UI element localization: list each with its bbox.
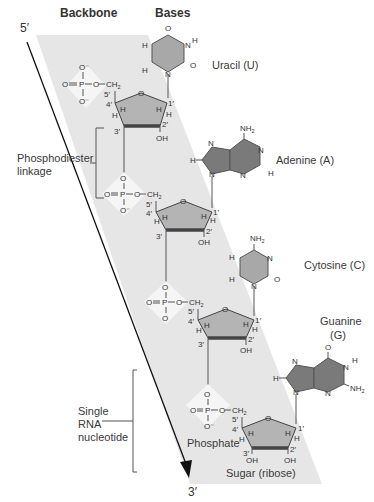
svg-text:H: H	[154, 217, 160, 226]
phosphodiester-label-line1: Phosphodiester	[17, 152, 94, 164]
svg-text:OH: OH	[240, 346, 252, 355]
svg-text:1′: 1′	[168, 99, 174, 108]
svg-text:H: H	[190, 156, 196, 165]
svg-text:3′: 3′	[156, 232, 162, 241]
svg-text:NH2: NH2	[240, 124, 255, 134]
svg-text:H: H	[201, 212, 207, 221]
svg-text:O: O	[180, 197, 186, 206]
svg-text:O: O	[104, 190, 110, 199]
svg-text:OH: OH	[198, 238, 210, 247]
svg-text:N: N	[325, 389, 331, 398]
svg-text:N: N	[267, 254, 273, 263]
svg-text:P: P	[162, 298, 167, 307]
svg-text:N: N	[165, 70, 171, 79]
svg-text:H: H	[248, 429, 254, 438]
base-label-guanine: Guanine	[320, 315, 362, 327]
svg-text:O: O	[190, 61, 196, 70]
svg-text:P: P	[205, 406, 210, 415]
svg-text:O: O	[165, 24, 171, 33]
svg-text:O: O	[219, 406, 225, 415]
svg-text:H: H	[210, 216, 216, 225]
svg-text:N: N	[293, 388, 299, 397]
svg-text:OH: OH	[156, 134, 168, 143]
svg-text:5′: 5′	[104, 90, 110, 99]
svg-text:H: H	[142, 41, 148, 50]
svg-text:NH2: NH2	[350, 384, 365, 394]
svg-text:N: N	[343, 363, 349, 372]
svg-text:O: O	[162, 283, 168, 292]
base-label-cytosine: Cytosine (C)	[304, 259, 365, 271]
svg-text:N: N	[209, 170, 215, 179]
svg-text:H: H	[285, 429, 291, 438]
svg-text:O: O	[138, 89, 144, 98]
svg-text:H: H	[243, 320, 249, 329]
svg-text:4′: 4′	[232, 425, 238, 434]
svg-text:N: N	[258, 146, 264, 155]
svg-text:OH: OH	[284, 456, 296, 465]
single-nucleotide-label-line1: Single	[78, 405, 109, 417]
svg-text:1′: 1′	[298, 424, 304, 433]
svg-text:1′: 1′	[255, 316, 261, 325]
svg-text:4′: 4′	[188, 317, 194, 326]
svg-text:3′: 3′	[198, 340, 204, 349]
rna-structure-diagram: Backbone Bases 5′ 3′ O⁻ O P O CH2 O⁻ O 5…	[0, 0, 374, 502]
svg-text:O: O	[274, 275, 280, 284]
svg-text:4′: 4′	[146, 209, 152, 218]
svg-text:O: O	[146, 298, 152, 307]
svg-text:O: O	[134, 190, 140, 199]
single-nucleotide-bracket	[102, 370, 137, 472]
svg-text:2′: 2′	[206, 227, 212, 236]
svg-text:O: O	[190, 406, 196, 415]
svg-text:H: H	[156, 105, 162, 114]
phosphodiester-label-line2: linkage	[17, 165, 52, 177]
svg-text:H: H	[166, 110, 172, 119]
svg-text:H: H	[204, 321, 210, 330]
svg-text:H: H	[142, 66, 148, 75]
svg-text:H: H	[120, 105, 126, 114]
svg-text:H: H	[273, 374, 279, 383]
five-prime-label: 5′	[20, 21, 30, 35]
svg-text:H: H	[294, 434, 300, 443]
svg-text:3′: 3′	[114, 127, 120, 136]
base-label-guanine-abbrev: (G)	[330, 329, 346, 341]
svg-text:H: H	[239, 435, 245, 444]
svg-text:H: H	[352, 356, 358, 365]
svg-text:N: N	[240, 171, 246, 180]
svg-text:O: O	[265, 414, 271, 423]
bases-header: Bases	[155, 6, 191, 20]
svg-text:O⁻: O⁻	[79, 97, 89, 106]
svg-text:N: N	[292, 357, 298, 366]
svg-text:H: H	[229, 253, 235, 262]
svg-text:P: P	[120, 190, 125, 199]
svg-text:N: N	[251, 282, 257, 291]
svg-text:O: O	[204, 390, 210, 399]
svg-text:O: O	[120, 174, 126, 183]
svg-text:H: H	[192, 36, 198, 45]
svg-text:O: O	[176, 298, 182, 307]
svg-text:N: N	[185, 41, 191, 50]
svg-text:O: O	[325, 343, 331, 352]
svg-text:H: H	[229, 275, 235, 284]
svg-text:5′: 5′	[188, 307, 194, 316]
base-label-adenine: Adenine (A)	[276, 154, 334, 166]
svg-text:NH2: NH2	[250, 234, 265, 244]
svg-text:O⁻: O⁻	[79, 63, 89, 72]
svg-text:O⁻: O⁻	[204, 422, 214, 431]
svg-text:O: O	[93, 80, 99, 89]
svg-text:O⁻: O⁻	[120, 206, 130, 215]
svg-text:O: O	[162, 314, 168, 323]
svg-text:H: H	[268, 169, 274, 178]
svg-text:5′: 5′	[146, 200, 152, 209]
svg-text:H: H	[252, 325, 258, 334]
phosphate-label: Phosphate	[187, 437, 240, 449]
svg-text:H: H	[112, 111, 118, 120]
svg-text:4′: 4′	[106, 100, 112, 109]
svg-text:5′: 5′	[232, 415, 238, 424]
svg-text:H: H	[196, 326, 202, 335]
svg-text:2′: 2′	[290, 445, 296, 454]
single-nucleotide-label-line3: nucleotide	[78, 431, 128, 443]
three-prime-label: 3′	[188, 485, 198, 499]
svg-text:H: H	[162, 213, 168, 222]
svg-text:OH: OH	[246, 456, 258, 465]
svg-text:O: O	[62, 80, 68, 89]
